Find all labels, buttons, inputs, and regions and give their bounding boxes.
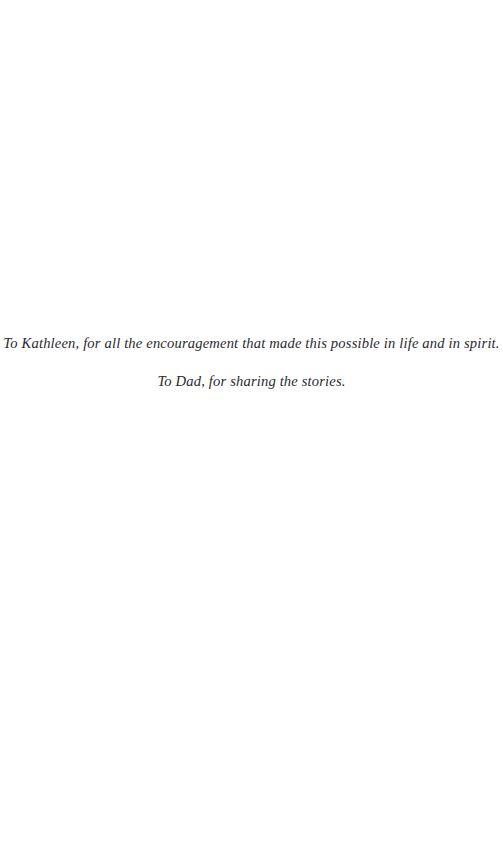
dedication-page: To Kathleen, for all the encouragement t… [0,0,503,861]
dedication-line-dad: To Dad, for sharing the stories. [0,351,503,389]
dedication-line-kathleen: To Kathleen, for all the encouragement t… [0,330,503,351]
dedication-block: To Kathleen, for all the encouragement t… [0,330,503,388]
